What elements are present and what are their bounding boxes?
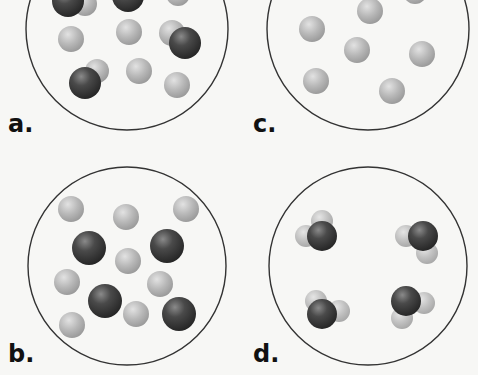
light-atom: [54, 269, 80, 295]
light-atom: [409, 41, 435, 67]
light-atom: [403, 0, 427, 4]
dark-atom: [162, 297, 196, 331]
dark-atom: [69, 67, 101, 99]
panel-d: [269, 167, 467, 365]
panel-b: [28, 167, 226, 365]
dark-atom: [88, 284, 122, 318]
panel-label-a: a.: [8, 112, 33, 136]
panel-a: [26, 0, 228, 130]
light-atom: [113, 204, 139, 230]
dark-atom: [169, 27, 201, 59]
light-atom: [299, 16, 325, 42]
light-atom: [164, 72, 190, 98]
light-atom: [58, 196, 84, 222]
light-atom: [115, 248, 141, 274]
panel-c: [267, 0, 469, 130]
light-atom: [173, 196, 199, 222]
container-circle: [269, 167, 467, 365]
dark-atom: [408, 221, 438, 251]
dark-atom: [307, 299, 337, 329]
dark-atom: [72, 231, 106, 265]
light-atom: [58, 26, 84, 52]
light-atom: [123, 301, 149, 327]
light-atom: [166, 0, 190, 6]
light-atom: [116, 19, 142, 45]
dark-atom: [307, 221, 337, 251]
light-atom: [303, 68, 329, 94]
dark-atom: [391, 286, 421, 316]
dark-atom: [112, 0, 144, 12]
light-atom: [147, 271, 173, 297]
panel-label-c: c.: [253, 112, 276, 136]
dark-atom: [150, 229, 184, 263]
light-atom: [357, 0, 383, 24]
particle-diagram: [0, 0, 478, 375]
light-atom: [379, 78, 405, 104]
light-atom: [126, 58, 152, 84]
light-atom: [344, 37, 370, 63]
panel-label-b: b.: [8, 342, 34, 366]
light-atom: [59, 312, 85, 338]
panel-label-d: d.: [253, 342, 279, 366]
